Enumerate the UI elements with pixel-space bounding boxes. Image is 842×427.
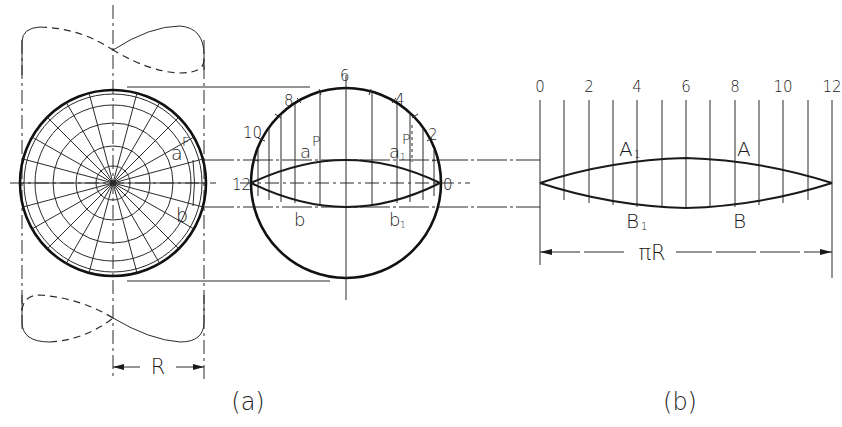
division-label-8: 8 [284,92,294,110]
division-label-2: 2 [428,126,438,144]
bottom-loop-solid-right [113,295,204,342]
point-label-A1-subscript: 1 [634,149,640,160]
top-loop-dashed-bottom-right [113,50,204,73]
arrow-right-icon [193,364,204,370]
scale-label-12: 12 [822,78,841,96]
scale-label-4: 4 [632,78,642,96]
point-label-A1: A [619,137,633,161]
caption-a: (a) [231,388,264,416]
scale-label-10: 10 [773,78,792,96]
scale-label-0: 0 [535,78,545,96]
top-loop-right-corner [180,26,204,70]
division-label-0: 0 [443,176,453,194]
scale-label-2: 2 [584,78,594,96]
sphere-pole-view: a F b R (a) [10,5,265,416]
point-label-P-left: P [312,133,320,149]
meridian-spokes [20,93,206,273]
development-element-lines [540,100,832,278]
point-label-a1: a [389,141,400,162]
projection-lines [127,87,540,281]
bottom-loop-dashed-left [50,318,113,342]
point-label-a1-subscript: 1 [400,152,406,162]
label-a: a [171,142,183,164]
arrow-right-icon [820,249,832,255]
arrow-left-icon [113,364,124,370]
point-label-B1: B [626,209,639,233]
division-label-12: 12 [232,176,251,194]
scale-label-6: 6 [681,78,691,96]
point-label-b1: b [389,209,400,230]
bottom-loop-left-corner [22,295,50,342]
point-label-a: a [300,141,311,162]
top-loop-solid-right [113,26,180,50]
development-of-sphere-diagram: a F b R (a) [0,0,842,427]
sphere-elevation-view: 12 10 8 6 4 2 0 a P a 1 P b b 1 [232,67,470,300]
division-label-4: 4 [395,91,405,109]
gore-development: 0 2 4 6 8 10 12 A 1 A B 1 B πR (b) [535,78,841,416]
bottom-loop-dashed-top-left [22,295,113,318]
pi-r-label: πR [638,241,665,265]
point-label-B: B [733,209,746,233]
division-label-6: 6 [340,67,350,85]
top-loop-left-corner [22,27,40,75]
scale-label-8: 8 [730,78,740,96]
label-F: F [182,134,189,149]
division-label-10: 10 [243,124,262,142]
point-label-A: A [737,137,751,161]
point-label-b: b [294,209,305,230]
top-loop-dashed-left [40,27,113,50]
label-b: b [176,204,188,226]
point-label-P-right: P [402,131,410,147]
arrow-left-icon [540,249,552,255]
point-label-B1-subscript: 1 [641,221,647,232]
radius-label: R [151,355,166,379]
caption-b: (b) [663,388,697,416]
point-label-b1-subscript: 1 [400,220,406,230]
